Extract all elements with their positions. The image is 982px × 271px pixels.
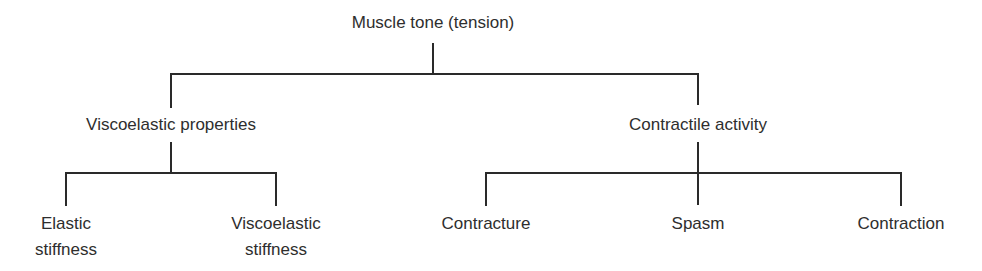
- node-label: Contracture: [442, 214, 531, 233]
- node-contracture: Contracture: [442, 211, 531, 237]
- viscoelastic-branch: [66, 173, 276, 206]
- node-label: Contraction: [858, 214, 945, 233]
- node-elastic-stiffness: Elastic stiffness: [35, 211, 97, 263]
- node-viscoelastic-stiffness: Viscoelastic stiffness: [231, 211, 320, 263]
- contractile-branch: [486, 173, 901, 206]
- node-label: Spasm: [672, 214, 725, 233]
- node-spasm: Spasm: [672, 211, 725, 237]
- node-contractile-activity: Contractile activity: [629, 112, 767, 138]
- node-label: Muscle tone (tension): [352, 13, 515, 32]
- node-label-line2: stiffness: [231, 237, 320, 263]
- node-muscle-tone: Muscle tone (tension): [352, 10, 515, 36]
- root-branch: [171, 74, 698, 108]
- node-label-line1: Viscoelastic: [231, 211, 320, 237]
- node-label-line2: stiffness: [35, 237, 97, 263]
- node-viscoelastic-properties: Viscoelastic properties: [86, 112, 256, 138]
- node-label-line1: Elastic: [35, 211, 97, 237]
- node-label: Contractile activity: [629, 115, 767, 134]
- node-contraction: Contraction: [858, 211, 945, 237]
- node-label: Viscoelastic properties: [86, 115, 256, 134]
